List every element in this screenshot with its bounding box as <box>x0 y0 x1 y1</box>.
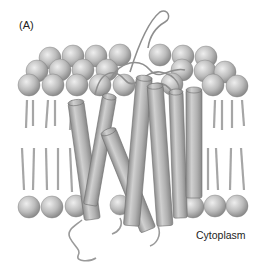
upper-lipid-heads <box>18 44 248 97</box>
helix-5 <box>147 83 173 227</box>
helix-7 <box>186 87 202 198</box>
membrane-protein-figure: (A) Cytoplasm <box>0 0 279 270</box>
cytoplasm-label: Cytoplasm <box>196 229 246 241</box>
panel-label: (A) <box>19 19 34 31</box>
transmembrane-helices <box>68 75 202 233</box>
helix-6 <box>169 89 187 218</box>
